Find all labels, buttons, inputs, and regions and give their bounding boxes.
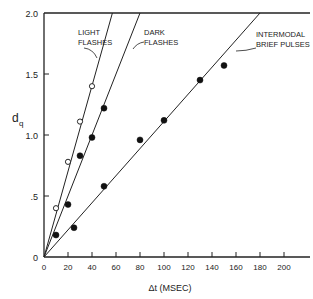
annotation-light-line1: LIGHT	[78, 28, 101, 37]
y-tick-label: 0	[33, 253, 38, 263]
filled-circle-marker	[221, 62, 227, 68]
open-circle-marker	[53, 206, 58, 211]
scatter-plot: 020406080100120140160180200 0.51.01.52.0…	[0, 0, 313, 299]
x-tick-label: 20	[64, 263, 73, 272]
x-axis-label: Δt (MSEC)	[148, 283, 191, 293]
x-tick-label: 140	[205, 263, 219, 272]
x-tick-label: 40	[88, 263, 97, 272]
filled-circle-marker	[89, 134, 95, 140]
filled-circle-marker	[161, 117, 167, 123]
annotation-dark-line1: DARK	[144, 28, 165, 37]
annotation-light-arrow	[84, 48, 97, 58]
y-tick-label: 2.0	[25, 9, 38, 19]
y-tick-label: 1.5	[25, 70, 38, 80]
x-ticks: 020406080100120140160180200	[42, 252, 291, 272]
filled-circle-marker	[101, 105, 107, 111]
data-points	[53, 62, 227, 238]
x-tick-label: 180	[253, 263, 267, 272]
axes	[44, 13, 310, 257]
y-ticks: 0.51.01.52.0	[25, 9, 49, 263]
x-tick-label: 100	[157, 263, 171, 272]
annotation-intermodal-arrow	[236, 48, 256, 51]
annotation-dark-line2: FLASHES	[144, 38, 178, 47]
annotation-light-line2: FLASHES	[78, 38, 112, 47]
x-tick-label: 60	[112, 263, 121, 272]
filled-circle-marker	[137, 137, 143, 143]
x-tick-label: 200	[277, 263, 291, 272]
x-tick-label: 80	[136, 263, 145, 272]
fit-line-2	[44, 13, 260, 257]
filled-circle-marker	[77, 153, 83, 159]
x-tick-label: 120	[181, 263, 195, 272]
filled-circle-marker	[71, 225, 77, 231]
filled-circle-marker	[197, 77, 203, 83]
x-tick-label: 0	[42, 263, 47, 272]
annotation-intermodal-line2: BRIEF PULSES	[256, 40, 310, 49]
filled-circle-marker	[53, 232, 59, 238]
filled-circle-marker	[101, 183, 107, 189]
fit-lines	[44, 13, 260, 257]
x-tick-label: 160	[229, 263, 243, 272]
y-axis-label-main: d	[12, 111, 19, 125]
fit-line-0	[44, 13, 112, 257]
annotations: LIGHT FLASHES DARK FLASHES INTERMODAL BR…	[78, 28, 310, 58]
y-tick-label: .5	[30, 192, 38, 202]
y-tick-label: 1.0	[25, 131, 38, 141]
open-circle-marker	[89, 84, 94, 89]
open-circle-marker	[65, 159, 70, 164]
annotation-dark-arrow	[133, 42, 144, 49]
open-circle-marker	[77, 119, 82, 124]
y-axis-label-sub: q	[19, 119, 23, 128]
annotation-intermodal-line1: INTERMODAL	[256, 30, 305, 39]
filled-circle-marker	[65, 202, 71, 208]
chart-container: 020406080100120140160180200 0.51.01.52.0…	[0, 0, 313, 299]
